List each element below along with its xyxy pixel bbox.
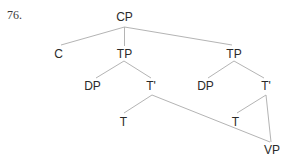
node-tp-left: TP	[117, 48, 132, 60]
edge-tp-left-dp-left	[96, 61, 124, 78]
node-dp-left: DP	[84, 80, 101, 92]
edge-tp-right-dp-right	[208, 61, 234, 78]
syntax-tree-diagram: 76. CP C TP TP DP T' DP T' T T VP	[0, 0, 285, 167]
edge-tbar-left-t-left	[124, 95, 152, 113]
node-tbar-left: T'	[146, 80, 156, 92]
node-tbar-right: T'	[261, 80, 271, 92]
edge-cp-tp-right	[125, 27, 233, 45]
node-vp: VP	[264, 144, 280, 156]
edge-tp-right-tbar-right	[234, 61, 264, 78]
edge-tp-left-tbar-left	[124, 61, 151, 78]
node-t-right: T	[232, 116, 239, 128]
node-dp-right: DP	[197, 80, 214, 92]
edge-tbar-right-vp	[266, 95, 271, 142]
node-cp: CP	[116, 11, 133, 23]
edge-tbar-left-vp	[152, 95, 270, 142]
node-t-left: T	[120, 116, 127, 128]
edge-cp-c	[61, 27, 125, 45]
tree-edges	[0, 0, 285, 167]
node-tp-right: TP	[226, 48, 241, 60]
edge-tbar-right-t-right	[237, 95, 266, 113]
node-c: C	[54, 48, 63, 60]
